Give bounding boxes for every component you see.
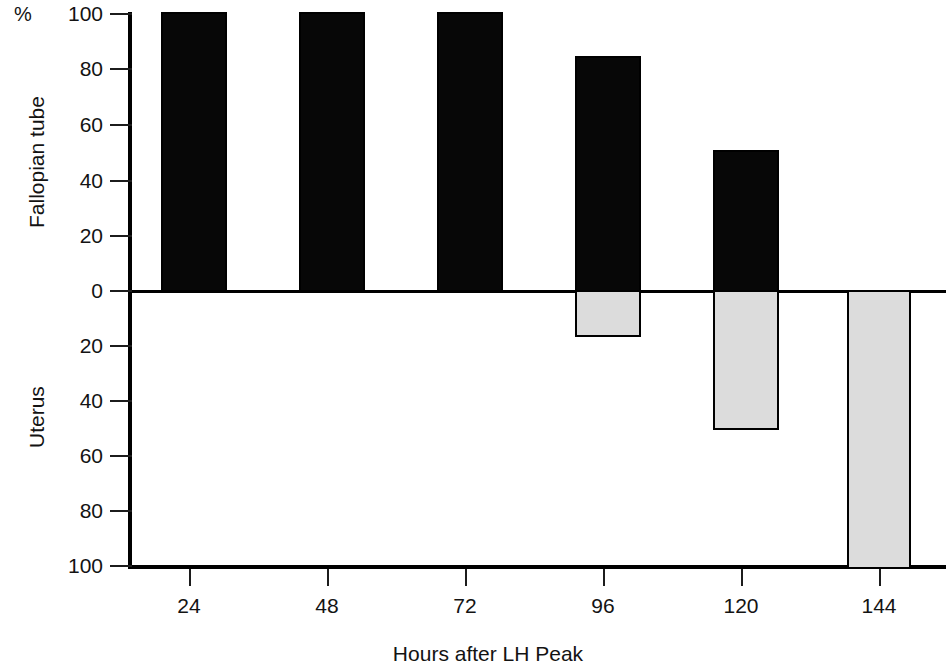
- chart-figure: % 100 80 60 40 20 0 20 40 60 80 100 Fall…: [0, 0, 947, 668]
- x-label-48: 48: [277, 595, 377, 616]
- y-label-ut-100: 100: [35, 555, 103, 576]
- y-label-zero: 0: [35, 280, 103, 301]
- bar-uterus-120: [713, 290, 779, 430]
- x-axis-bottom-line: [128, 565, 946, 569]
- plot-area: [0, 0, 947, 668]
- bar-fallopian-tube-120: [713, 150, 779, 292]
- bar-fallopian-tube-96: [575, 56, 641, 292]
- x-label-96: 96: [553, 595, 653, 616]
- y-label-ft-100: 100: [35, 3, 103, 24]
- y-tick-ut-80: [110, 510, 132, 512]
- y-tick-ft-20: [110, 235, 132, 237]
- x-tick-24: [189, 569, 191, 586]
- y-tick-zero: [110, 290, 132, 292]
- x-axis-title: Hours after LH Peak: [338, 643, 638, 664]
- x-tick-144: [879, 569, 881, 586]
- y-axis-title-uterus: Uterus: [26, 386, 47, 448]
- x-tick-48: [327, 569, 329, 586]
- bar-uterus-144: [847, 290, 911, 569]
- x-tick-96: [603, 569, 605, 586]
- y-tick-ft-80: [110, 68, 132, 70]
- y-label-ut-80: 80: [35, 500, 103, 521]
- x-tick-72: [465, 569, 467, 586]
- y-axis-title-fallopian-tube: Fallopian tube: [26, 96, 47, 228]
- y-tick-ft-60: [110, 124, 132, 126]
- y-tick-ft-100: [110, 13, 132, 15]
- y-label-ft-80: 80: [35, 58, 103, 79]
- zero-baseline: [128, 290, 946, 293]
- y-label-ut-20: 20: [35, 335, 103, 356]
- x-tick-120: [741, 569, 743, 586]
- bar-fallopian-tube-48: [299, 12, 365, 292]
- x-label-144: 144: [829, 595, 929, 616]
- y-tick-ut-20: [110, 345, 132, 347]
- y-label-ut-60: 60: [35, 445, 103, 466]
- bar-uterus-96: [575, 290, 641, 337]
- bar-fallopian-tube-72: [437, 12, 503, 292]
- x-label-24: 24: [139, 595, 239, 616]
- y-tick-ut-60: [110, 455, 132, 457]
- y-tick-ft-40: [110, 180, 132, 182]
- y-label-ft-20: 20: [35, 225, 103, 246]
- y-tick-ut-100: [110, 565, 132, 567]
- bar-fallopian-tube-24: [161, 12, 227, 292]
- percent-unit-label: %: [14, 4, 32, 24]
- y-tick-ut-40: [110, 400, 132, 402]
- x-label-120: 120: [691, 595, 791, 616]
- x-label-72: 72: [415, 595, 515, 616]
